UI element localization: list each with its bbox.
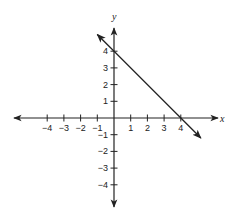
coordinate-plane: −4−3−2−112344321−1−2−3−4 x y [0,0,240,214]
x-tick-label: 4 [178,123,183,133]
y-tick-label: 3 [103,63,108,73]
y-tick-label: 2 [103,80,108,90]
y-tick-label: −3 [98,163,108,173]
x-tick-label: 1 [128,123,133,133]
y-tick-label: −2 [98,146,108,156]
y-axis-label: y [111,11,117,22]
x-tick-label: −4 [42,123,52,133]
x-tick-label: 3 [162,123,167,133]
y-tick-label: −1 [98,130,108,140]
x-tick-label: −3 [59,123,69,133]
y-tick-label: 4 [103,46,108,56]
y-tick-label: 1 [103,96,108,106]
x-tick-label: 2 [145,123,150,133]
x-tick-label: −2 [75,123,85,133]
x-axis-label: x [219,113,225,124]
axes [14,28,218,207]
y-tick-label: −4 [98,180,108,190]
